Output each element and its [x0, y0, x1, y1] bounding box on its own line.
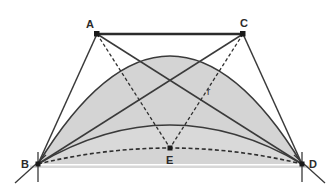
point-marker-C: [240, 31, 246, 37]
point-marker-A: [94, 31, 100, 37]
point-marker-E: [168, 146, 173, 151]
point-label-B: B: [21, 158, 29, 170]
point-label-E: E: [166, 154, 173, 166]
tick-at-B-outer: [15, 155, 46, 183]
point-marker-D: [300, 162, 305, 167]
diagram-canvas: A C B D E r: [0, 0, 334, 190]
point-label-D: D: [309, 158, 317, 170]
point-label-C: C: [240, 17, 248, 29]
point-label-A: A: [86, 18, 94, 30]
point-marker-B: [36, 162, 41, 167]
geometry-figure: A C B D E r: [0, 0, 334, 190]
